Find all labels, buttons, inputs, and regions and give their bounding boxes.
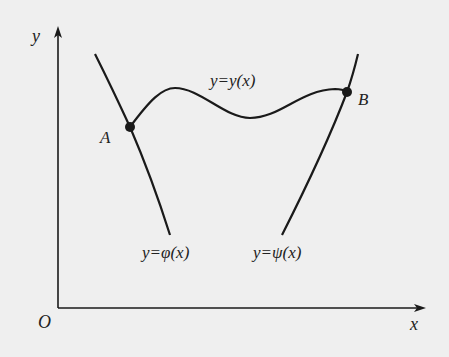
point-b-label: B [358,90,369,109]
y-axis [54,26,62,308]
y-axis-label: y [30,26,40,46]
diagram-canvas: y O x A B y=y(x) y=φ(x) y=ψ(x) [0,0,449,357]
x-axis-label: x [409,314,418,334]
curve-psi [282,54,358,235]
x-axis [58,304,426,312]
curve-y [130,88,347,127]
point-a-label: A [99,128,111,147]
curve-y-label: y=y(x) [208,71,256,90]
point-a-marker [125,122,135,132]
point-b-marker [342,87,352,97]
origin-label: O [38,312,51,332]
curve-phi-label: y=φ(x) [140,243,190,262]
curve-psi-label: y=ψ(x) [251,243,302,262]
